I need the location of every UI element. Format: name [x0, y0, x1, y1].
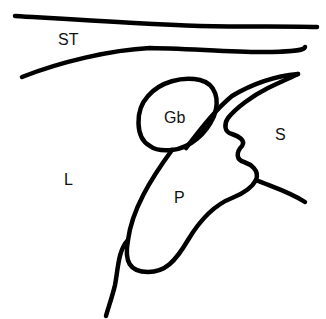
label-l: L [64, 171, 73, 188]
st-lower-line [22, 47, 305, 77]
st-upper-line [15, 16, 317, 27]
pancreas-left-line [127, 150, 256, 272]
label-p: P [174, 189, 185, 206]
diagram-canvas: ST Gb S L P [0, 0, 326, 319]
label-s: S [275, 126, 286, 143]
stomach-lower-line [256, 180, 305, 202]
label-st: ST [58, 31, 79, 48]
stomach-inner-line [225, 74, 298, 180]
label-gb: Gb [164, 109, 185, 126]
